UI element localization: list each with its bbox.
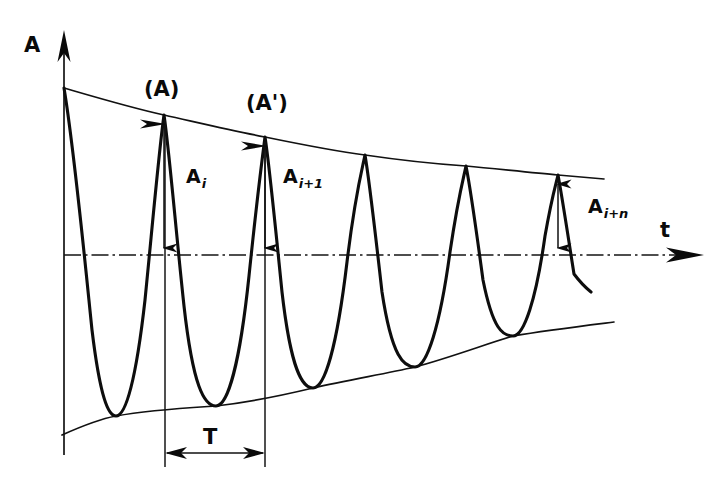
period-label: T (203, 425, 218, 449)
damped-oscillation-figure: A t Ai Ai+1 (0, 0, 721, 487)
damped-waveform (64, 88, 591, 416)
amplitude-ain-base: A (588, 195, 603, 217)
amplitude-ain-label: Ai+n (588, 195, 628, 221)
upper-envelope-curve (64, 88, 604, 179)
amplitude-ain-subscript: i+n (604, 206, 629, 221)
figure-canvas: A t Ai Ai+1 (0, 0, 721, 487)
lower-envelope-curve (62, 322, 614, 435)
amplitude-ai-label: Ai (186, 165, 207, 191)
peak-a-prime-label: (A') (246, 91, 288, 115)
amplitude-ai-subscript: i (202, 176, 207, 191)
x-axis-label: t (660, 218, 670, 242)
peak-a-label: (A) (144, 77, 179, 101)
amplitude-ai-base: A (186, 165, 201, 187)
amplitude-ai1-label: Ai+1 (283, 165, 323, 191)
amplitude-ai1-base: A (283, 165, 298, 187)
period-reference-lines (165, 120, 265, 467)
amplitude-ai1-subscript: i+1 (299, 176, 323, 191)
y-axis-label: A (24, 33, 41, 57)
x-axis-group: t (64, 218, 704, 263)
period-measure: T (167, 425, 263, 453)
